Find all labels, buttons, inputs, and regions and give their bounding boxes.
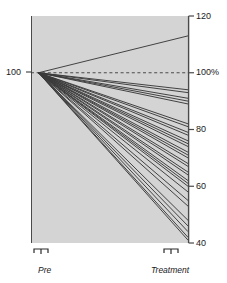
x-axis-label-treatment: Treatment	[151, 266, 189, 275]
right-axis-label-40: 40	[196, 239, 206, 248]
x-axis-label-pre: Pre	[38, 266, 51, 275]
right-axis-label-60: 60	[196, 182, 206, 191]
left-axis-label-100: 100	[6, 68, 21, 77]
chart-figure: 100 120 100% 80 60 40 Pre Treatment	[0, 0, 227, 283]
right-axis-label-120: 120	[196, 12, 211, 21]
bracket-pre	[34, 249, 48, 254]
right-axis-label-100pct: 100%	[196, 68, 219, 77]
bracket-treatment	[164, 249, 178, 254]
plot-area	[31, 16, 189, 243]
right-axis-ticks	[189, 16, 194, 243]
right-axis-label-80: 80	[196, 125, 206, 134]
